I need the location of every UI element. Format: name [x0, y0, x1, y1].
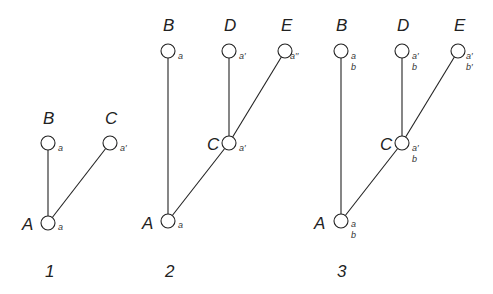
node-sublabel: a′: [239, 51, 246, 61]
node-circle: [222, 136, 236, 150]
panel-number: 2: [164, 262, 175, 281]
node-label: A: [21, 215, 33, 234]
node-circle: [334, 214, 348, 228]
node-label: B: [163, 16, 174, 35]
node-sublabel: a: [58, 143, 63, 153]
node-sublabel: a: [178, 220, 183, 230]
node-c: Ca′: [103, 109, 127, 153]
panel-number: 1: [45, 262, 54, 281]
node-circle: [451, 44, 465, 58]
node-label: D: [397, 16, 409, 35]
edge-a-c: [345, 149, 397, 216]
edge-c-e: [233, 57, 282, 137]
panel-number: 3: [337, 262, 347, 281]
node-label: B: [43, 109, 54, 128]
node-sublabel: a′: [120, 143, 127, 153]
edge-a-c: [172, 149, 224, 216]
node-a: Aab: [313, 214, 356, 240]
node-sublabel: b: [412, 154, 417, 164]
node-b: Ba: [41, 109, 63, 153]
node-circle: [103, 136, 117, 150]
node-sublabel: a: [178, 51, 183, 61]
node-label: E: [454, 16, 466, 35]
node-sublabel: a: [351, 219, 356, 229]
node-sublabel: a′′: [290, 51, 299, 61]
node-a: Aa: [141, 214, 183, 233]
node-label: B: [336, 16, 347, 35]
node-e: Ea′′: [278, 16, 299, 61]
node-sublabel: b: [351, 230, 356, 240]
node-circle: [395, 136, 409, 150]
node-sublabel: a′: [466, 51, 473, 61]
node-sublabel: a: [58, 222, 63, 232]
node-sublabel: a′: [412, 143, 419, 153]
node-label: C: [207, 135, 220, 154]
node-d: Da′b: [395, 16, 419, 72]
node-label: C: [105, 109, 118, 128]
node-sublabel: a′: [412, 51, 419, 61]
node-label: A: [313, 214, 325, 233]
node-circle: [161, 44, 175, 58]
node-b: Ba: [161, 16, 183, 61]
node-c: Ca′: [207, 135, 246, 154]
tree-diagram: AaBaCa′1AaBaCa′Da′Ea′′2AabBabCa′bDa′bEa′…: [0, 0, 493, 294]
node-label: A: [141, 214, 153, 233]
node-circle: [334, 44, 348, 58]
node-d: Da′: [222, 16, 246, 61]
edge-a-c: [52, 149, 105, 218]
node-a: Aa: [21, 215, 63, 234]
node-label: E: [281, 16, 293, 35]
node-sublabel: b: [351, 62, 356, 72]
node-sublabel: a′: [239, 143, 246, 153]
node-c: Ca′b: [380, 135, 419, 164]
node-sublabel: b′: [466, 62, 473, 72]
node-sublabel: a: [351, 51, 356, 61]
node-circle: [222, 44, 236, 58]
node-circle: [161, 214, 175, 228]
node-label: C: [380, 135, 393, 154]
node-sublabel: b: [412, 62, 417, 72]
node-circle: [41, 136, 55, 150]
panel-1: AaBaCa′1: [21, 109, 127, 281]
node-circle: [395, 44, 409, 58]
panel-3: AabBabCa′bDa′bEa′b′3: [313, 16, 473, 281]
node-b: Bab: [334, 16, 356, 72]
node-label: D: [224, 16, 236, 35]
node-circle: [41, 216, 55, 230]
panel-2: AaBaCa′Da′Ea′′2: [141, 16, 299, 281]
node-e: Ea′b′: [451, 16, 473, 72]
